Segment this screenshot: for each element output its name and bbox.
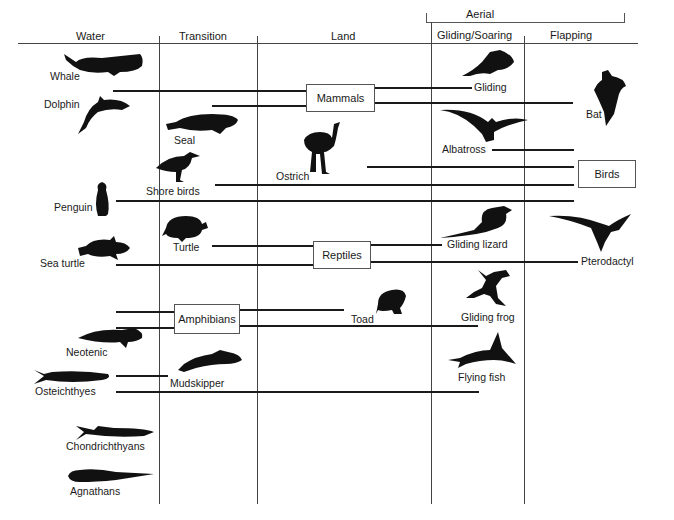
agnathans-icon <box>66 466 156 484</box>
label-dolphin: Dolphin <box>44 98 80 110</box>
column-header-transition: Transition <box>179 30 227 42</box>
column-header-flapping: Flapping <box>550 29 592 41</box>
line-reptiles-pterodactyl <box>370 261 578 263</box>
pterodactyl-icon <box>547 212 633 254</box>
label-penguin: Penguin <box>54 201 93 213</box>
label-gliding-frog: Gliding frog <box>461 311 515 323</box>
label-shore-birds: Shore birds <box>146 185 200 197</box>
line-amphibians-toad <box>238 309 344 311</box>
label-agnathans: Agnathans <box>70 485 120 497</box>
flying-fish-icon <box>446 330 518 370</box>
penguin-icon <box>94 180 110 218</box>
line-whale-mammals <box>113 90 306 92</box>
label-osteichthyes: Osteichthyes <box>35 385 96 397</box>
chondrichthyans-icon <box>74 424 156 442</box>
divider-water-transition <box>159 36 160 504</box>
label-turtle: Turtle <box>173 241 199 253</box>
sea-turtle-icon <box>76 236 132 262</box>
label-mudskipper: Mudskipper <box>170 377 224 389</box>
line-seal-mammals <box>212 105 306 107</box>
ostrich-icon <box>302 120 344 176</box>
line-osteichthyes-flying-fish <box>116 391 479 393</box>
gliding-mammal-icon <box>460 48 516 78</box>
line-ostrich-birds <box>367 166 574 168</box>
line-amphibians-gliding-frog <box>238 325 478 327</box>
column-header-land: Land <box>331 30 355 42</box>
shore-birds-icon <box>154 150 202 184</box>
line-neotenic-amphibians-top <box>116 311 174 313</box>
albatross-icon <box>438 106 530 146</box>
neotenic-icon <box>76 326 146 348</box>
line-mammals-bat <box>374 102 573 104</box>
osteichthyes-icon <box>32 368 112 386</box>
gliding-frog-icon <box>464 268 516 308</box>
column-header-water: Water <box>76 30 105 42</box>
group-box-mammals: Mammals <box>306 84 375 112</box>
line-mammals-gliding <box>374 87 472 89</box>
label-flying-fish: Flying fish <box>458 371 505 383</box>
turtle-icon <box>162 214 208 242</box>
divider-land-gliding <box>431 22 432 504</box>
label-gliding-mammal: Gliding <box>474 81 507 93</box>
line-albatross-birds <box>492 149 574 151</box>
line-penguin-birds <box>116 200 574 202</box>
line-shorebirds-birds <box>215 184 574 186</box>
mudskipper-icon <box>176 348 244 374</box>
group-box-birds: Birds <box>578 160 636 188</box>
line-reptiles-gliding-lizard <box>370 244 442 246</box>
dolphin-icon <box>76 96 132 136</box>
toad-icon <box>374 288 408 316</box>
line-osteichthyes-mudskipper <box>116 375 168 377</box>
header-rule <box>18 43 638 44</box>
label-toad: Toad <box>351 313 374 325</box>
group-box-amphibians: Amphibians <box>174 304 240 334</box>
line-seaturtle-reptiles <box>116 264 313 266</box>
label-pterodactyl: Pterodactyl <box>581 255 634 267</box>
line-turtle-reptiles <box>212 245 313 247</box>
group-box-reptiles: Reptiles <box>313 241 371 269</box>
bat-icon <box>592 68 628 128</box>
aerial-bracket-line <box>426 22 624 23</box>
gliding-lizard-icon <box>438 204 514 240</box>
whale-icon <box>62 50 146 80</box>
column-header-gliding-soaring: Gliding/Soaring <box>437 29 512 41</box>
seal-icon <box>164 112 240 136</box>
